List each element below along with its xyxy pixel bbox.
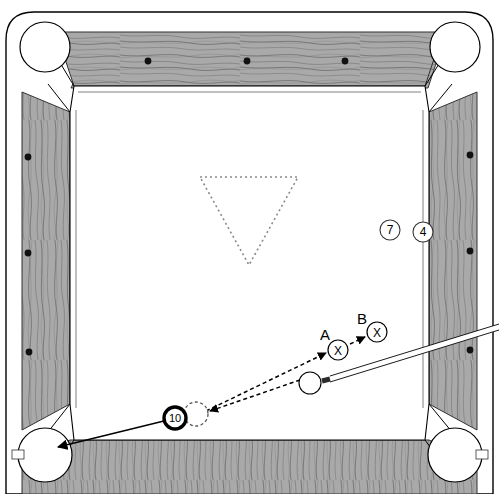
diamond-right-1 bbox=[467, 152, 474, 159]
diamond-left-1 bbox=[25, 154, 32, 161]
diamond-top-2 bbox=[244, 58, 251, 65]
pocket-notch-right bbox=[476, 450, 488, 459]
ghost-ball bbox=[184, 402, 208, 426]
ball-4: 4 bbox=[413, 222, 433, 242]
cue-ferrule bbox=[322, 379, 330, 381]
cue-ball bbox=[299, 372, 321, 394]
ball-7: 7 bbox=[380, 220, 400, 240]
target-b-mark: X bbox=[373, 326, 381, 340]
ball-4-label: 4 bbox=[420, 225, 427, 239]
diamond-right-3 bbox=[467, 347, 474, 354]
target-a-letter: A bbox=[320, 326, 330, 343]
pocket-bottom-right bbox=[428, 428, 482, 482]
ball-7-label: 7 bbox=[387, 223, 394, 237]
rail-right bbox=[429, 92, 477, 430]
ball-10: 10 bbox=[164, 407, 186, 429]
diamond-right-2 bbox=[467, 248, 474, 255]
diamond-left-3 bbox=[26, 349, 33, 356]
pocket-bottom-left bbox=[18, 428, 72, 482]
rail-bottom bbox=[22, 440, 477, 494]
target-a-mark: X bbox=[334, 344, 342, 358]
diamond-top-3 bbox=[342, 58, 349, 65]
pocket-top-left bbox=[20, 22, 70, 72]
pocket-notch-left bbox=[12, 450, 24, 459]
table-frame bbox=[6, 12, 493, 494]
ball-10-label: 10 bbox=[169, 412, 181, 424]
pocket-top-right bbox=[430, 22, 480, 72]
diamond-left-2 bbox=[25, 250, 32, 257]
rail-left bbox=[22, 92, 70, 430]
diamond-top-1 bbox=[145, 58, 152, 65]
target-b-letter: B bbox=[357, 310, 367, 327]
pool-table-diagram: 10 7 4 X A X B bbox=[0, 0, 499, 494]
